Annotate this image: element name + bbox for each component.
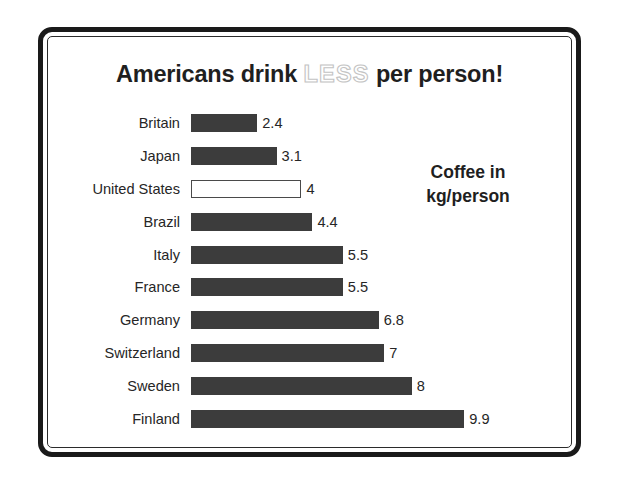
bar — [191, 344, 384, 362]
title-part-1: Americans drink — [116, 61, 304, 87]
bar — [191, 377, 412, 395]
bar — [191, 311, 379, 329]
bar-category-label: France — [48, 279, 180, 295]
bar — [191, 213, 312, 231]
page-title: Americans drink LESS per person! — [48, 61, 571, 88]
bar-row: Sweden8 — [48, 369, 571, 402]
bar-row: Switzerland7 — [48, 337, 571, 370]
bar-track: 5.5 — [191, 246, 565, 264]
bar-category-label: United States — [48, 181, 180, 197]
bar-row: Italy5.5 — [48, 238, 571, 271]
bar-chart-plot-area: Britain2.4Japan3.1United States4Brazil4.… — [48, 107, 571, 447]
bar-category-label: Sweden — [48, 378, 180, 394]
bar-track: 2.4 — [191, 114, 565, 132]
bar-track: 3.1 — [191, 147, 565, 165]
bar-row: Finland9.9 — [48, 402, 571, 435]
bar — [191, 278, 343, 296]
bar-category-label: Brazil — [48, 214, 180, 230]
bar — [191, 114, 257, 132]
bar-category-label: Germany — [48, 312, 180, 328]
bar-track: 8 — [191, 377, 565, 395]
bar-row: Britain2.4 — [48, 107, 571, 140]
bar-value-label: 3.1 — [277, 148, 302, 164]
bar-row: Brazil4.4 — [48, 205, 571, 238]
bar-track: 5.5 — [191, 278, 565, 296]
bar-track: 6.8 — [191, 311, 565, 329]
bar-track: 4.4 — [191, 213, 565, 231]
bar-category-label: Switzerland — [48, 345, 180, 361]
bar-highlighted — [191, 180, 301, 198]
title-part-2: per person! — [370, 61, 503, 87]
slide-frame: Americans drink LESS per person! Coffee … — [38, 27, 581, 457]
bar-value-label: 2.4 — [257, 115, 282, 131]
bar-category-label: Britain — [48, 115, 180, 131]
slide-inner-border: Americans drink LESS per person! Coffee … — [47, 36, 572, 448]
bar-category-label: Italy — [48, 247, 180, 263]
bar-category-label: Finland — [48, 411, 180, 427]
bar-value-label: 7 — [384, 345, 397, 361]
bar — [191, 410, 464, 428]
bar-row: France5.5 — [48, 271, 571, 304]
bar — [191, 246, 343, 264]
bar-value-label: 4.4 — [312, 214, 337, 230]
bar-value-label: 8 — [412, 378, 425, 394]
bar — [191, 147, 277, 165]
title-emphasis-less: LESS — [303, 61, 369, 87]
bar-row: Japan3.1 — [48, 140, 571, 173]
bar-row: Germany6.8 — [48, 304, 571, 337]
bar-value-label: 5.5 — [343, 247, 368, 263]
bar-value-label: 6.8 — [379, 312, 404, 328]
bar-value-label: 9.9 — [464, 411, 489, 427]
bar-value-label: 5.5 — [343, 279, 368, 295]
bar-track: 9.9 — [191, 410, 565, 428]
bar-track: 4 — [191, 180, 565, 198]
bar-row: United States4 — [48, 173, 571, 206]
bar-category-label: Japan — [48, 148, 180, 164]
bar-track: 7 — [191, 344, 565, 362]
bar-value-label: 4 — [301, 181, 314, 197]
